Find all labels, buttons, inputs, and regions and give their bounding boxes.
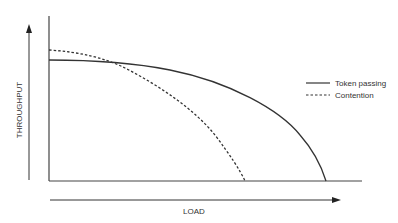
legend: Token passing Contention — [306, 79, 386, 100]
x-arrow-icon — [50, 197, 341, 203]
legend-item-contention: Contention — [306, 91, 374, 100]
throughput-load-diagram: Token passing Contention LOAD THROUGHPUT — [0, 0, 398, 223]
legend-label-token-passing: Token passing — [335, 79, 386, 88]
y-arrow-icon — [26, 24, 32, 180]
x-axis-label: LOAD — [183, 207, 205, 216]
legend-item-token-passing: Token passing — [306, 79, 386, 88]
contention-curve — [49, 50, 245, 181]
y-axis-label: THROUGHPUT — [15, 82, 24, 139]
legend-label-contention: Contention — [335, 91, 374, 100]
token-passing-curve — [49, 60, 326, 181]
